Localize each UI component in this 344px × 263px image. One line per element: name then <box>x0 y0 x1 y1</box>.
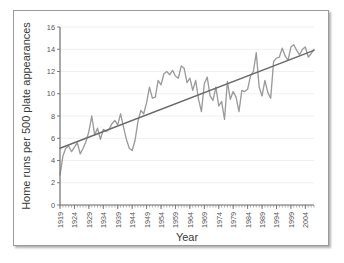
y-axis-ticks: 0246810121416 <box>47 23 60 210</box>
y-tick-label: 16 <box>47 23 55 32</box>
x-tick-label: 1999 <box>287 212 296 228</box>
x-tick-label: 1994 <box>272 212 281 228</box>
figure-frame: 0246810121416 19191924192919341939194419… <box>13 10 329 246</box>
y-tick-label: 12 <box>47 67 55 76</box>
x-tick-label: 1929 <box>85 212 94 228</box>
home-runs-line-chart: 0246810121416 19191924192919341939194419… <box>14 11 330 247</box>
x-tick-label: 1979 <box>229 212 238 228</box>
y-tick-label: 2 <box>51 178 55 187</box>
x-tick-label: 1989 <box>258 212 267 228</box>
x-tick-label: 2004 <box>301 212 310 228</box>
y-tick-label: 0 <box>51 201 55 210</box>
y-tick-label: 6 <box>51 134 55 143</box>
x-tick-label: 1984 <box>244 212 253 228</box>
y-tick-label: 10 <box>47 89 55 98</box>
trend-line <box>60 50 314 148</box>
x-tick-label: 1949 <box>143 212 152 228</box>
x-tick-label: 1919 <box>56 212 65 228</box>
y-axis-title: Home runs per 500 plate appearances <box>20 22 32 210</box>
x-tick-label: 1969 <box>200 212 209 228</box>
x-tick-label: 1939 <box>114 212 123 228</box>
y-tick-label: 8 <box>51 112 55 121</box>
y-tick-label: 4 <box>51 156 55 165</box>
x-tick-label: 1924 <box>70 212 79 228</box>
x-tick-label: 1934 <box>99 212 108 228</box>
x-axis-ticks: 1919192419291934193919441949195419591964… <box>56 205 314 228</box>
plot-lines <box>60 45 314 175</box>
x-tick-label: 1954 <box>157 212 166 228</box>
x-tick-label: 1974 <box>215 212 224 228</box>
gridlines <box>60 27 314 205</box>
x-axis-title: Year <box>176 231 199 243</box>
y-tick-label: 14 <box>47 45 55 54</box>
x-tick-label: 1964 <box>186 212 195 228</box>
x-tick-label: 1959 <box>171 212 180 228</box>
x-tick-label: 1944 <box>128 212 137 228</box>
